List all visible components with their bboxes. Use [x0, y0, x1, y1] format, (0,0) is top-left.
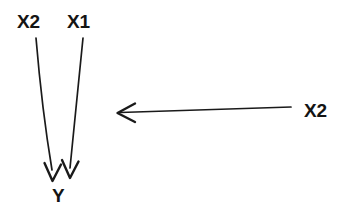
edge-x2-left-to-y-arrowhead	[45, 163, 62, 181]
node-label-x1: X1	[67, 12, 90, 31]
edge-x2-left-to-y-line	[36, 38, 52, 170]
edge-x1-to-y	[62, 38, 83, 178]
node-label-y: Y	[52, 186, 64, 205]
node-label-x2-left: X2	[17, 12, 40, 31]
node-label-x2-right: X2	[304, 101, 327, 120]
diagram-canvas: X2 X1 Y X2	[0, 0, 346, 215]
diagram-drawing	[0, 0, 346, 215]
edge-x1-to-y-line	[70, 38, 83, 168]
edge-x2-left-to-y	[36, 38, 61, 181]
edge-x2-right-leftward	[118, 104, 292, 123]
edge-x2-right-leftward-line	[120, 107, 291, 113]
